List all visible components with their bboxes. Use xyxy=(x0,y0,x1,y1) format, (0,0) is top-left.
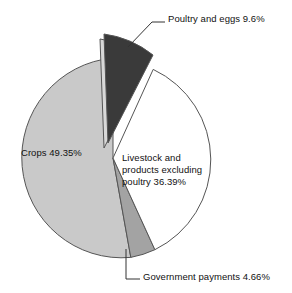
slice-label-livestock-line2: products excluding xyxy=(122,164,218,176)
slice-label-livestock-line1: Livestock and xyxy=(122,152,218,164)
pie-chart: Poultry and eggs 9.6% Crops 49.35% Lives… xyxy=(0,0,292,293)
slice-label-government-payments: Government payments 4.66% xyxy=(143,271,270,283)
slice-label-livestock-line3: poultry 36.39% xyxy=(122,176,218,188)
slice-label-livestock: Livestock and products excluding poultry… xyxy=(122,152,218,189)
slice-label-crops: Crops 49.35% xyxy=(21,147,82,159)
slice-label-poultry-and-eggs: Poultry and eggs 9.6% xyxy=(168,13,265,25)
